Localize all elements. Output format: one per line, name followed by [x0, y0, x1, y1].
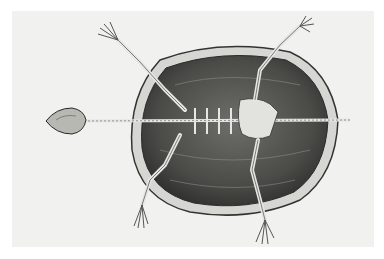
- skull: [46, 108, 86, 134]
- shell: [132, 47, 338, 216]
- turtle-skeleton-engraving: [0, 0, 384, 259]
